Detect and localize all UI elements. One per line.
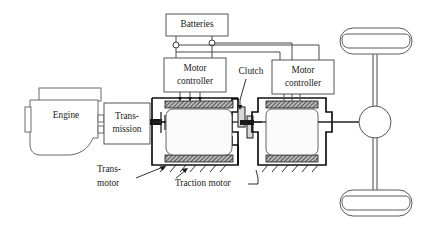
engine-body bbox=[30, 100, 98, 155]
traction-motor-stator-bottom bbox=[266, 155, 318, 162]
engine-output-flange-top bbox=[98, 115, 104, 122]
trans-motor-rotor bbox=[166, 109, 232, 155]
batteries-label: Batteries bbox=[180, 19, 213, 29]
engine-output-flange-bottom bbox=[98, 126, 104, 133]
traction-motor-label: Traction motor bbox=[175, 178, 232, 188]
drivetrain-diagram: Engine Trans- mission bbox=[0, 0, 439, 227]
transmission-label-line1: Trans- bbox=[115, 111, 139, 121]
trans-motor-label-line1: Trans- bbox=[97, 164, 121, 174]
transmission-label-line2: mission bbox=[113, 124, 142, 134]
motor-controller-right-label-line1: Motor bbox=[291, 65, 315, 75]
wheel-bottom-inner bbox=[342, 196, 410, 210]
engine-side-mount bbox=[25, 107, 31, 132]
battery-node-1 bbox=[173, 42, 179, 48]
engine-label: Engine bbox=[53, 110, 79, 120]
engine-top-cover bbox=[39, 88, 101, 101]
transmission-group: Trans- mission bbox=[104, 103, 150, 144]
trans-motor-stator-top bbox=[165, 101, 233, 108]
motor-controller-right-label-line2: controller bbox=[285, 78, 322, 88]
trans-motor-stator-bottom bbox=[165, 155, 233, 162]
wheel-top-inner bbox=[342, 34, 410, 48]
diagram-root: Engine Trans- mission bbox=[0, 0, 439, 227]
differential bbox=[359, 106, 391, 138]
clutch-label: Clutch bbox=[239, 66, 264, 76]
traction-motor-stator-top bbox=[266, 101, 318, 108]
motor-controller-left-label-line2: controller bbox=[177, 76, 214, 86]
motor-controller-left-label-line1: Motor bbox=[183, 63, 207, 73]
trans-motor-label-line2: motor bbox=[97, 178, 120, 188]
traction-motor-rotor bbox=[266, 109, 318, 155]
